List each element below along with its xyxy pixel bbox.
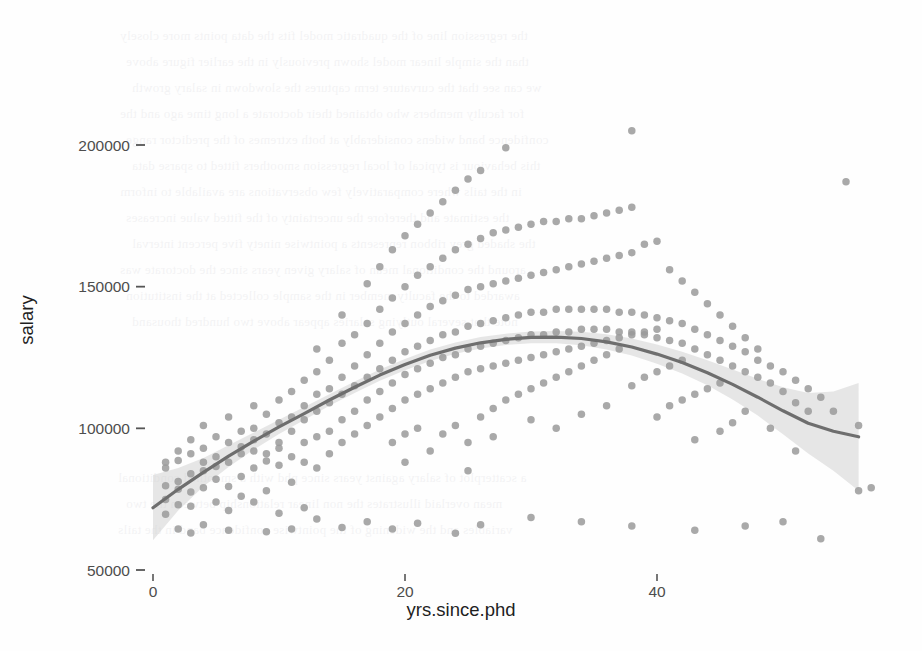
data-point bbox=[653, 325, 661, 333]
data-point bbox=[804, 408, 812, 416]
data-point bbox=[414, 520, 422, 528]
data-point bbox=[313, 368, 321, 376]
data-point bbox=[603, 255, 611, 263]
data-point bbox=[313, 464, 321, 472]
data-point bbox=[704, 351, 712, 359]
data-point bbox=[578, 362, 586, 370]
data-point bbox=[754, 374, 762, 382]
data-point bbox=[565, 368, 573, 376]
data-point bbox=[439, 379, 447, 387]
data-point bbox=[678, 340, 686, 348]
data-point bbox=[389, 439, 397, 447]
data-point bbox=[401, 459, 409, 467]
data-point bbox=[452, 246, 460, 254]
data-point bbox=[767, 362, 775, 370]
data-point bbox=[389, 405, 397, 413]
data-point bbox=[552, 348, 560, 356]
chart-figure: the regression line of the quadratic mod… bbox=[0, 0, 922, 651]
data-point bbox=[515, 223, 523, 231]
data-point bbox=[502, 277, 510, 285]
data-point bbox=[288, 427, 296, 435]
data-point bbox=[540, 379, 548, 387]
data-point bbox=[225, 439, 233, 447]
data-point bbox=[653, 334, 661, 342]
data-point bbox=[263, 450, 271, 458]
data-point bbox=[439, 255, 447, 263]
data-point bbox=[200, 444, 208, 452]
data-point bbox=[578, 342, 586, 350]
data-point bbox=[729, 342, 737, 350]
data-point bbox=[300, 416, 308, 424]
data-point bbox=[363, 280, 371, 288]
data-point bbox=[288, 478, 296, 486]
y-axis-title: salary bbox=[16, 295, 37, 345]
data-point bbox=[263, 487, 271, 495]
data-point bbox=[590, 306, 598, 314]
y-tick-label: 50000 bbox=[87, 562, 130, 579]
data-point bbox=[603, 351, 611, 359]
data-point bbox=[716, 311, 724, 319]
data-point bbox=[477, 235, 485, 243]
data-point bbox=[187, 529, 195, 537]
y-axis: 50000100000150000200000 bbox=[78, 137, 145, 579]
data-point bbox=[779, 388, 787, 396]
data-point bbox=[426, 209, 434, 217]
data-point bbox=[741, 348, 749, 356]
data-point bbox=[615, 206, 623, 214]
data-point bbox=[565, 345, 573, 353]
y-tick-label: 100000 bbox=[78, 420, 130, 437]
data-point bbox=[464, 439, 472, 447]
data-point bbox=[389, 294, 397, 302]
data-point bbox=[376, 306, 384, 314]
data-point bbox=[666, 402, 674, 410]
data-point bbox=[565, 328, 573, 336]
data-point bbox=[628, 249, 636, 257]
data-point bbox=[867, 484, 875, 492]
data-point bbox=[628, 127, 636, 135]
data-point bbox=[578, 306, 586, 314]
data-point bbox=[187, 450, 195, 458]
data-point bbox=[162, 482, 170, 490]
data-point bbox=[338, 524, 346, 532]
data-point bbox=[590, 357, 598, 365]
data-point bbox=[590, 325, 598, 333]
data-point bbox=[754, 357, 762, 365]
data-point bbox=[804, 385, 812, 393]
data-point bbox=[376, 340, 384, 348]
data-point bbox=[716, 337, 724, 345]
data-point bbox=[414, 365, 422, 373]
x-axis: 02040 bbox=[149, 574, 666, 600]
data-point bbox=[275, 461, 283, 469]
data-point bbox=[855, 487, 863, 495]
data-point bbox=[578, 215, 586, 223]
data-point bbox=[653, 238, 661, 246]
data-point bbox=[489, 405, 497, 413]
y-tick-label: 200000 bbox=[78, 137, 130, 154]
data-point bbox=[363, 396, 371, 404]
data-point bbox=[741, 522, 749, 530]
y-tick-label: 150000 bbox=[78, 278, 130, 295]
data-point bbox=[351, 408, 359, 416]
data-point bbox=[225, 413, 233, 421]
data-point bbox=[704, 331, 712, 339]
data-point bbox=[250, 402, 257, 410]
data-point bbox=[363, 518, 371, 526]
data-point bbox=[691, 391, 699, 399]
data-point bbox=[300, 504, 308, 512]
data-point bbox=[174, 478, 182, 486]
data-point bbox=[792, 447, 800, 455]
data-point bbox=[578, 260, 586, 268]
data-point bbox=[477, 521, 485, 529]
data-point bbox=[540, 218, 548, 226]
data-point bbox=[439, 331, 447, 339]
data-point bbox=[401, 283, 409, 291]
data-point bbox=[326, 427, 334, 435]
data-point bbox=[527, 385, 535, 393]
data-point bbox=[464, 175, 472, 183]
data-point bbox=[439, 297, 447, 305]
data-point bbox=[263, 410, 271, 418]
data-point bbox=[678, 320, 686, 328]
data-point bbox=[389, 525, 397, 533]
data-point bbox=[527, 272, 535, 280]
data-point bbox=[401, 320, 409, 328]
